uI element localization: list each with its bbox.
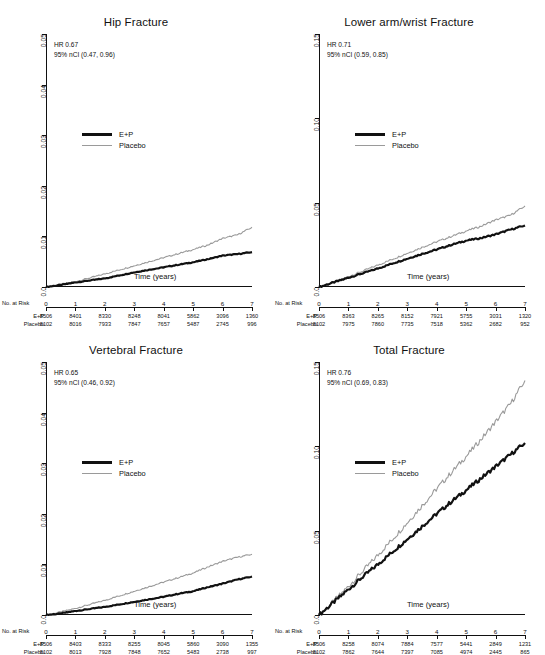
risk-cell: 7933	[99, 320, 111, 328]
x-tick-label: 6	[494, 299, 497, 308]
risk-cell: 8102	[313, 320, 325, 328]
legend: E+P Placebo	[82, 457, 146, 479]
x-tick-label: 2	[103, 299, 106, 308]
risk-table-header: No. at Risk	[275, 299, 302, 307]
x-tick-label: 4	[435, 627, 438, 636]
risk-table-header: No. at Risk	[2, 299, 29, 307]
panel-title: Total Fracture	[273, 344, 545, 356]
risk-row-label: Placebo	[2, 648, 44, 655]
risk-cell: 7397	[401, 648, 413, 655]
x-tick-label: 5	[464, 627, 467, 636]
legend: E+P Placebo	[355, 457, 419, 479]
plot-area: 0.00.050.100.15 HR 0.71 95% nCI (0.59, 0…	[319, 34, 525, 287]
risk-table-header: No. at Risk	[2, 627, 29, 635]
x-tick-label: 7	[250, 627, 253, 636]
risk-cell: 2682	[489, 320, 501, 328]
risk-cell: 8016	[69, 320, 81, 328]
panel-title: Vertebral Fracture	[0, 344, 272, 356]
legend-item-treatment: E+P	[82, 457, 146, 468]
risk-row-label: Placebo	[275, 648, 317, 655]
x-tick-label: 0	[317, 299, 320, 308]
risk-cell: 7847	[128, 320, 140, 328]
risk-cell: 952	[520, 320, 529, 328]
panel-title: Lower arm/wrist Fracture	[273, 16, 545, 28]
legend-label-placebo: Placebo	[119, 469, 146, 478]
x-tick-label: 5	[464, 299, 467, 308]
x-tick-label: 6	[221, 299, 224, 308]
risk-row-label: Placebo	[2, 320, 44, 328]
legend-item-control: Placebo	[82, 140, 146, 151]
legend-swatch-placebo	[82, 145, 112, 147]
curves	[46, 34, 252, 287]
legend-swatch-ep	[355, 133, 385, 136]
risk-cell: 2445	[489, 648, 501, 655]
risk-cell: 2738	[216, 648, 228, 655]
legend-item-control: Placebo	[355, 140, 419, 151]
legend-swatch-ep	[82, 461, 112, 464]
curve-ep	[46, 252, 252, 287]
risk-cell: 996	[247, 320, 256, 328]
risk-row-label: Placebo	[275, 320, 317, 328]
risk-cell: 7735	[401, 320, 413, 328]
x-tick-label: 1	[74, 299, 77, 308]
panel-vertebral-fracture: Vertebral Fracture 0.00.010.020.030.040.…	[0, 328, 272, 655]
risk-cell: 7644	[372, 648, 384, 655]
risk-cell: 7862	[342, 648, 354, 655]
x-tick-label: 2	[103, 627, 106, 636]
panel-title: Hip Fracture	[0, 16, 272, 28]
x-tick-label: 4	[162, 627, 165, 636]
legend-swatch-ep	[355, 461, 385, 464]
curve-ep	[46, 577, 252, 615]
risk-cell: 7657	[157, 320, 169, 328]
legend-item-control: Placebo	[82, 468, 146, 479]
risk-cell: 4974	[460, 648, 472, 655]
risk-cell: 7518	[430, 320, 442, 328]
x-tick-label: 6	[494, 627, 497, 636]
risk-cell: 8102	[313, 648, 325, 655]
curves	[319, 362, 525, 615]
legend-swatch-placebo	[82, 473, 112, 475]
x-tick-label: 7	[250, 299, 253, 308]
risk-cell: 8102	[40, 648, 52, 655]
x-tick-label: 7	[523, 299, 526, 308]
risk-cell: 7085	[430, 648, 442, 655]
panel-lower-arm-wrist-fracture: Lower arm/wrist Fracture 0.00.050.100.15…	[273, 0, 545, 327]
legend-label-placebo: Placebo	[392, 141, 419, 150]
x-tick-label: 4	[162, 299, 165, 308]
x-tick-label: 3	[406, 627, 409, 636]
x-axis-label: Time (years)	[134, 600, 176, 609]
legend-swatch-placebo	[355, 145, 385, 147]
legend-label-ep: E+P	[392, 130, 406, 139]
plot-area: 0.00.010.020.030.040.05 HR 0.65 95% nCI …	[46, 362, 252, 615]
x-axis-label: Time (years)	[134, 272, 176, 281]
legend-label-ep: E+P	[119, 130, 133, 139]
x-tick-label: 6	[221, 627, 224, 636]
x-tick-label: 0	[44, 627, 47, 636]
fracture-outcomes-figure: Hip Fracture 0.00.010.020.030.040.05 HR …	[0, 0, 545, 655]
legend-item-control: Placebo	[355, 468, 419, 479]
x-tick-label: 3	[406, 299, 409, 308]
risk-cell: 5362	[460, 320, 472, 328]
legend-item-treatment: E+P	[82, 129, 146, 140]
x-tick-label: 4	[435, 299, 438, 308]
risk-cell: 7652	[157, 648, 169, 655]
x-tick-label: 2	[376, 299, 379, 308]
risk-cell: 997	[247, 648, 256, 655]
plot-area: 0.00.010.020.030.040.05 HR 0.67 95% nCI …	[46, 34, 252, 287]
x-tick-label: 7	[523, 627, 526, 636]
risk-cell: 7860	[372, 320, 384, 328]
risk-cell: 865	[520, 648, 529, 655]
x-tick-label: 0	[317, 627, 320, 636]
legend-item-treatment: E+P	[355, 457, 419, 468]
risk-cell: 7975	[342, 320, 354, 328]
plot-area: 0.00.050.100.15 HR 0.76 95% nCI (0.69, 0…	[319, 362, 525, 615]
x-axis-label: Time (years)	[407, 272, 449, 281]
risk-cell: 5487	[187, 320, 199, 328]
legend-swatch-ep	[82, 133, 112, 136]
panel-total-fracture: Total Fracture 0.00.050.100.15 HR 0.76 9…	[273, 328, 545, 655]
x-tick-label: 2	[376, 627, 379, 636]
risk-cell: 2745	[216, 320, 228, 328]
legend: E+P Placebo	[82, 129, 146, 151]
x-tick-label: 1	[347, 627, 350, 636]
risk-cell: 8013	[69, 648, 81, 655]
